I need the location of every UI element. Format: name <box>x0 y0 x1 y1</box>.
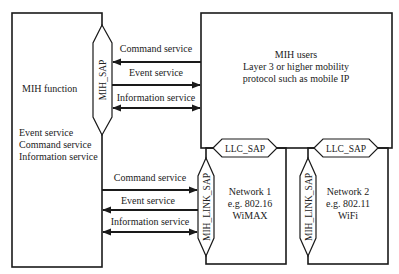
lower-information-label: Information service <box>111 216 190 227</box>
llc-sap-1: LLC_SAP <box>213 139 277 157</box>
mih-users-line: Layer 3 or higher mobility <box>243 61 349 72</box>
mih-function-service: Event service <box>19 127 74 138</box>
lower-event-label: Event service <box>121 195 176 206</box>
mih-function-title: MIH function <box>22 83 77 94</box>
mih-sap-label: MIH_SAP <box>98 60 108 101</box>
llc-sap-2-label: LLC_SAP <box>326 144 366 154</box>
mih-link-sap-1-label: MIH_LINK_SAP <box>202 173 212 241</box>
mih-link-sap-2: MIH_LINK_SAP <box>300 158 316 256</box>
lower-command-label: Command service <box>114 172 187 183</box>
upper-information-label: Information service <box>117 92 196 103</box>
llc-sap-1-label: LLC_SAP <box>225 144 265 154</box>
network-2-standard: e.g. 802.11 <box>326 198 370 209</box>
network-1-title: Network 1 <box>229 186 272 197</box>
mih-link-sap-2-label: MIH_LINK_SAP <box>304 173 314 241</box>
network-1-box: Network 1 e.g. 802.16 WiMAX <box>206 148 286 264</box>
lower-arrows: Command service Event service Informatio… <box>102 172 198 232</box>
mih-function-service: Command service <box>19 139 92 150</box>
upper-command-label: Command service <box>120 43 193 54</box>
mih-users-line: protocol such as mobile IP <box>243 73 350 84</box>
network-2-box: Network 2 e.g. 802.11 WiFi <box>308 148 388 264</box>
network-2-type: WiFi <box>338 210 358 221</box>
mih-link-sap-1: MIH_LINK_SAP <box>198 158 214 256</box>
llc-sap-2: LLC_SAP <box>314 139 378 157</box>
mih-function-box: MIH function Event service Command servi… <box>12 13 102 267</box>
network-1-type: WiMAX <box>232 210 268 221</box>
network-2-title: Network 2 <box>327 186 370 197</box>
mih-architecture-diagram: MIH function Event service Command servi… <box>0 0 399 274</box>
mih-users-title: MIH users <box>275 49 318 60</box>
upper-arrows: Command service Event service Informatio… <box>112 43 201 108</box>
network-1-standard: e.g. 802.16 <box>228 198 272 209</box>
mih-function-service: Information service <box>19 151 98 162</box>
mih-users-box: MIH users Layer 3 or higher mobility pro… <box>201 13 392 148</box>
mih-sap: MIH_SAP <box>93 25 112 135</box>
upper-event-label: Event service <box>129 67 184 78</box>
